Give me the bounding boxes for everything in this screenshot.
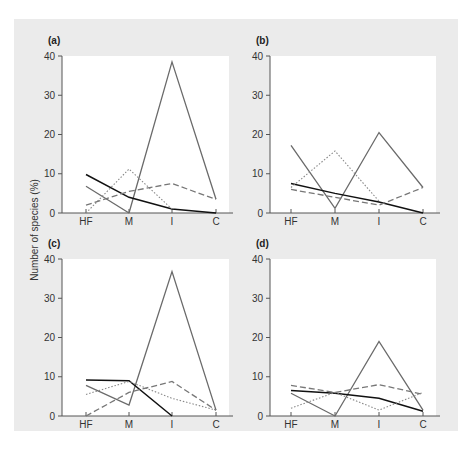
x-tick-label: I — [378, 419, 381, 430]
y-tick-label: 40 — [252, 51, 264, 62]
y-tick-label: 20 — [44, 332, 56, 343]
panel-label: (b) — [256, 35, 269, 46]
x-tick-label: HF — [79, 419, 92, 430]
x-tick-label: C — [419, 216, 426, 227]
y-tick-label: 30 — [252, 90, 264, 101]
x-tick-label: M — [125, 419, 133, 430]
x-tick-label: C — [419, 419, 426, 430]
x-tick-label: I — [171, 216, 174, 227]
y-tick-label: 20 — [44, 129, 56, 140]
y-tick-label: 20 — [252, 129, 264, 140]
panel-label: (d) — [256, 238, 269, 249]
y-tick-label: 40 — [44, 51, 56, 62]
chart-panel-a: (a)010203040HFMIC — [44, 35, 233, 227]
x-tick-label: C — [212, 419, 219, 430]
x-tick-label: I — [378, 216, 381, 227]
y-tick-label: 10 — [252, 371, 264, 382]
y-tick-label: 40 — [252, 254, 264, 265]
x-tick-label: HF — [284, 419, 297, 430]
chart-panel-b: (b)010203040HFMIC — [252, 35, 440, 227]
chart-panel-c: (c)010203040HFMIC — [44, 238, 233, 430]
y-tick-label: 30 — [252, 293, 264, 304]
figure-svg: (a)010203040HFMIC(b)010203040HFMIC(c)010… — [0, 0, 473, 449]
x-tick-label: HF — [284, 216, 297, 227]
y-tick-label: 10 — [44, 371, 56, 382]
x-tick-label: M — [125, 216, 133, 227]
y-tick-label: 20 — [252, 332, 264, 343]
chart-panel-d: (d)010203040HFMIC — [252, 238, 440, 430]
plot-area — [62, 56, 229, 213]
y-tick-label: 0 — [257, 208, 263, 219]
panel-label: (c) — [48, 238, 60, 249]
plot-area — [270, 56, 436, 213]
x-tick-label: M — [331, 419, 339, 430]
y-tick-label: 10 — [252, 168, 264, 179]
x-tick-label: I — [171, 419, 174, 430]
y-tick-label: 0 — [49, 208, 55, 219]
y-tick-label: 0 — [257, 411, 263, 422]
y-tick-label: 30 — [44, 293, 56, 304]
x-tick-label: C — [212, 216, 219, 227]
y-tick-label: 40 — [44, 254, 56, 265]
plot-area — [62, 259, 229, 416]
y-tick-label: 30 — [44, 90, 56, 101]
y-tick-label: 10 — [44, 168, 56, 179]
x-tick-label: HF — [79, 216, 92, 227]
y-tick-label: 0 — [49, 411, 55, 422]
panel-label: (a) — [48, 35, 60, 46]
x-tick-label: M — [331, 216, 339, 227]
